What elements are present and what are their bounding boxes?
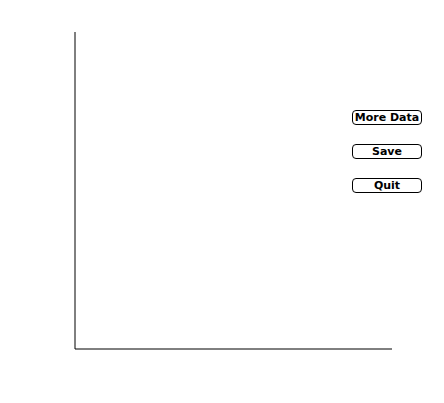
more-data-button[interactable]: More Data bbox=[352, 110, 422, 125]
scatter-plot bbox=[0, 0, 444, 403]
save-button[interactable]: Save bbox=[352, 144, 422, 159]
diagonal-line bbox=[75, 31, 385, 349]
quit-button[interactable]: Quit bbox=[352, 178, 422, 193]
